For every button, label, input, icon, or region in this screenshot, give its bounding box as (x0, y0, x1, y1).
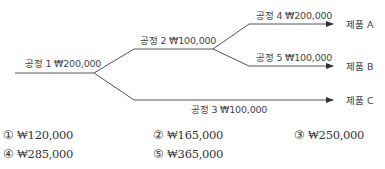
choice-number: ① (3, 128, 14, 142)
choice-value: ₩285,000 (17, 147, 73, 161)
process-1-label: 공정 1 ₩200,000 (25, 56, 101, 70)
process-4-label: 공정 4 ₩200,000 (256, 8, 332, 22)
choice-number: ③ (294, 128, 305, 142)
choice-1: ① ₩120,000 (3, 128, 73, 142)
process-5-label: 공정 5 ₩100,000 (256, 50, 332, 64)
choice-2: ② ₩165,000 (153, 128, 223, 142)
choice-3: ③ ₩250,000 (294, 128, 364, 142)
product-b-label: 제품 B (346, 59, 374, 73)
choice-value: ₩165,000 (167, 128, 223, 142)
choice-number: ⑤ (153, 147, 164, 161)
product-a-label: 제품 A (346, 17, 374, 31)
branch-p2-p5 (213, 49, 249, 66)
choice-value: ₩250,000 (308, 128, 364, 142)
choice-value: ₩365,000 (167, 147, 223, 161)
process-3-label: 공정 3 ₩100,000 (191, 102, 267, 116)
choice-number: ④ (3, 147, 14, 161)
product-c-label: 제품 C (346, 93, 374, 107)
choice-4: ④ ₩285,000 (3, 147, 73, 161)
process-flow-diagram (0, 0, 385, 169)
choice-number: ② (153, 128, 164, 142)
choice-value: ₩120,000 (17, 128, 73, 142)
branch-p2-p4 (213, 24, 249, 49)
branch-p1-p3 (94, 73, 134, 100)
choice-5: ⑤ ₩365,000 (153, 147, 223, 161)
process-2-label: 공정 2 ₩100,000 (140, 33, 216, 47)
